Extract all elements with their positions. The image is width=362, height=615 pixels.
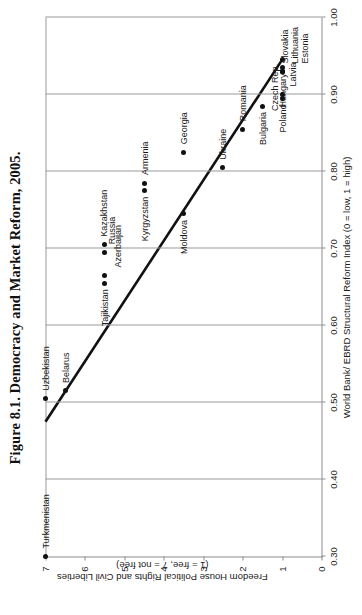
x-axis-tick-label: 1.00 [327,8,338,27]
figure-canvas: Figure 8.1. Democracy and Market Reform,… [0,0,362,615]
rotated-figure-wrapper: Figure 8.1. Democracy and Market Reform,… [0,0,362,615]
data-point-label: Uzbekistan [41,346,50,391]
data-point-label: Bulgaria [258,112,267,145]
x-axis-tick-label: 0.90 [327,85,338,104]
data-point[interactable] [141,188,146,193]
y-axis-title: Freedom House Political Rights and Civil… [32,559,292,583]
x-gridline [45,170,321,171]
x-axis-tick [321,401,325,402]
data-point-label: Tajikistan [100,289,109,326]
data-point-label: Slovakia [280,29,289,63]
x-gridline [45,324,321,325]
figure-title: Figure 8.1. Democracy and Market Reform,… [6,0,23,615]
data-point[interactable] [279,68,284,73]
data-point-label: Poland [278,104,287,132]
x-axis-tick-label: 0.30 [327,547,338,566]
x-axis-tick-label: 0.80 [327,162,338,181]
data-point[interactable] [102,242,107,247]
data-point[interactable] [220,165,225,170]
x-axis-tick-label: 0.60 [327,316,338,335]
data-point[interactable] [259,103,264,108]
data-point[interactable] [102,272,107,277]
data-point-label: Belarus [61,352,70,383]
y-axis-tick [321,556,322,560]
data-point-label: Turkmenistan [41,494,50,548]
x-gridline [45,478,321,479]
data-point-label: Georgia [179,112,188,144]
x-axis-tick [321,16,325,17]
data-point[interactable] [141,180,146,185]
data-point-label: Kazakhstan [99,189,108,236]
data-point[interactable] [43,554,48,559]
x-axis-title: World Bank/ EBRD Structural Reform Index… [340,17,351,557]
data-point-label: Romania [238,85,247,121]
data-point[interactable] [181,149,186,154]
data-point-label: Moldova [179,219,188,253]
x-axis-tick [321,324,325,325]
data-point-label: Estonia [300,33,309,63]
data-point-label: Latvia [288,62,297,86]
x-axis-tick [321,247,325,248]
y-axis-title-line2: (1 = free, 7 = not free) [32,559,292,571]
data-point[interactable] [43,396,48,401]
data-point[interactable] [181,211,186,216]
y-axis-title-line1: Freedom House Political Rights and Civil… [32,571,292,583]
x-axis-tick [321,478,325,479]
data-point-label: Hungary [278,73,287,107]
x-axis-tick-label: 0.70 [327,239,338,258]
data-point-label: Lithuania [290,26,299,63]
data-point[interactable] [102,249,107,254]
data-point[interactable] [102,280,107,285]
y-axis-tick-label: 0 [316,566,327,571]
x-axis-tick [321,170,325,171]
data-point-label: Ukraine [218,128,227,159]
x-gridline [45,401,321,402]
x-axis-tick-label: 0.50 [327,393,338,412]
plot-area: 0.300.400.500.600.700.800.901.0001234567… [45,17,322,557]
x-axis-tick [321,93,325,94]
data-point-label: Kyrgyzstan [140,196,149,241]
x-gridline [45,16,321,17]
data-point[interactable] [240,126,245,131]
data-point[interactable] [62,388,67,393]
x-axis-tick-label: 0.40 [327,470,338,489]
data-point[interactable] [279,92,284,97]
data-point-label: Armenia [140,141,149,175]
